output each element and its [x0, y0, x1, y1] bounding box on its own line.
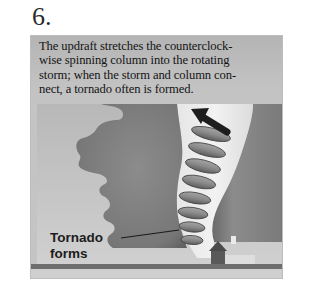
caption-line: wise spinning column into the rotating — [39, 53, 279, 67]
illustration-panel: The updraft stretches the counterclock- … — [31, 36, 282, 278]
caption-line: storm; when the storm and column con- — [39, 68, 279, 82]
caption-line: nect, a tornado often is formed. — [39, 82, 279, 96]
label-line: forms — [50, 246, 103, 262]
label-line: Tornado — [50, 230, 103, 246]
ground — [31, 264, 282, 269]
tornado-forms-label: Tornado forms — [50, 230, 103, 261]
caption-text: The updraft stretches the counterclock- … — [39, 39, 279, 97]
step-number: 6. — [32, 4, 52, 30]
caption-line: The updraft stretches the counterclock- — [39, 39, 279, 53]
